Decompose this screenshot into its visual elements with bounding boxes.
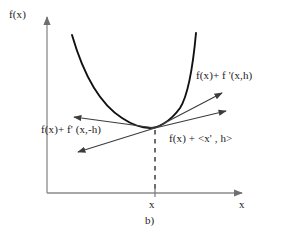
x-axis-tick-label: x (149, 199, 155, 210)
x-axis-label: x (239, 199, 245, 210)
function-curve-group (72, 33, 196, 128)
ray-forward-difference (155, 93, 222, 128)
annotation-inner-product: f(x) + <x' , h> (169, 133, 232, 144)
annotation-backward-difference: f(x)+ f' (x,-h) (41, 124, 101, 135)
axis-group (47, 17, 242, 197)
annotation-forward-difference: f(x)+ f '(x,h) (196, 70, 252, 81)
figure-container: f(x) x x f(x)+ f '(x,h) f(x)+ f' (x,-h) … (0, 0, 303, 238)
ray-inner-product (155, 111, 226, 128)
y-axis-label: f(x) (9, 9, 26, 20)
parabola-curve (72, 33, 196, 128)
figure-caption: b) (145, 215, 154, 226)
